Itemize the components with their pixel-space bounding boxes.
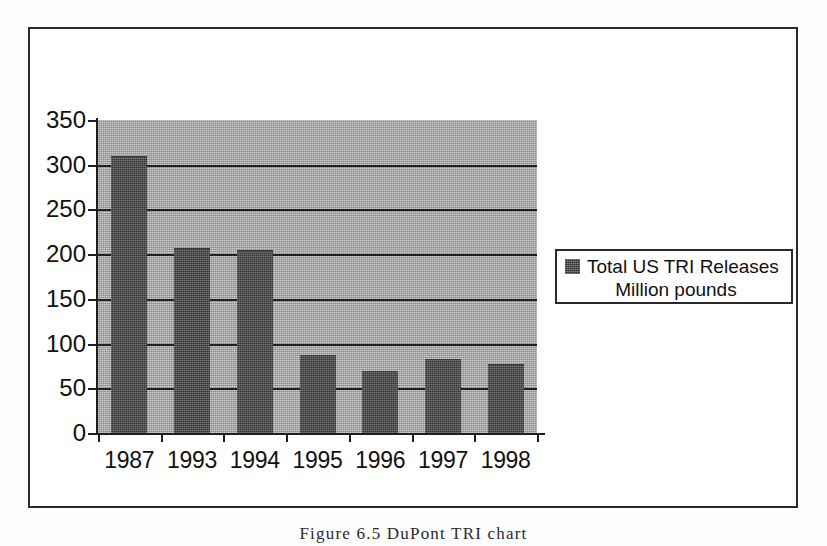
- y-axis-tick: [88, 120, 98, 122]
- x-axis-tick-label: 1996: [349, 449, 412, 472]
- y-axis-tick: [88, 344, 98, 346]
- legend-label-line2: Million pounds: [587, 278, 779, 301]
- x-axis-tick-label: 1997: [412, 449, 475, 472]
- y-axis-tick: [88, 209, 98, 211]
- x-axis-tick: [349, 433, 351, 442]
- bar: [111, 156, 147, 433]
- x-axis-tick: [161, 433, 163, 442]
- bar: [362, 371, 398, 433]
- bar: [300, 355, 336, 433]
- bar: [488, 364, 524, 433]
- bar-chart: 350300250200150100500 198719931994199519…: [30, 29, 800, 510]
- y-axis-labels: 350300250200150100500: [30, 29, 86, 510]
- y-axis-tick: [88, 254, 98, 256]
- x-axis-tick-label: 1995: [286, 449, 349, 472]
- bar-series: [98, 120, 537, 433]
- x-axis-tick: [98, 433, 100, 442]
- y-axis-tick-label: 0: [34, 421, 86, 445]
- y-axis-tick-label: 300: [34, 153, 86, 177]
- figure-frame: 350300250200150100500 198719931994199519…: [28, 27, 798, 508]
- legend-swatch-icon: [565, 259, 580, 274]
- bar: [425, 359, 461, 433]
- legend-label: Total US TRI Releases Million pounds: [587, 255, 779, 301]
- y-axis-tick: [88, 299, 98, 301]
- y-axis-tick-label: 50: [34, 376, 86, 400]
- y-axis-tick-label: 200: [34, 242, 86, 266]
- x-axis-tick-label: 1993: [161, 449, 224, 472]
- x-axis-tick: [223, 433, 225, 442]
- x-axis-tick-label: 1994: [223, 449, 286, 472]
- x-axis-tick: [474, 433, 476, 442]
- y-axis-tick: [88, 388, 98, 390]
- x-axis-line: [88, 433, 545, 435]
- x-axis-tick-label: 1998: [474, 449, 537, 472]
- figure-caption: Figure 6.5 DuPont TRI chart: [0, 524, 827, 544]
- bar: [174, 248, 210, 433]
- y-axis-tick-label: 350: [34, 108, 86, 132]
- y-axis-tick-label: 100: [34, 332, 86, 356]
- x-axis-tick: [286, 433, 288, 442]
- chart-legend: Total US TRI Releases Million pounds: [555, 249, 793, 304]
- y-axis-tick: [88, 433, 98, 435]
- legend-entry: Total US TRI Releases Million pounds: [565, 255, 785, 301]
- y-axis-tick-label: 250: [34, 197, 86, 221]
- bar: [237, 250, 273, 433]
- legend-label-line1: Total US TRI Releases: [587, 256, 779, 277]
- x-axis-tick: [537, 433, 539, 442]
- x-axis-tick-label: 1987: [98, 449, 161, 472]
- y-axis-tick: [88, 165, 98, 167]
- x-axis-tick: [412, 433, 414, 442]
- y-axis-tick-label: 150: [34, 287, 86, 311]
